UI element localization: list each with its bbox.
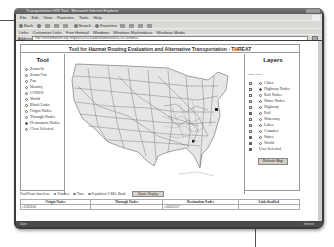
origin-node-marker bbox=[215, 108, 218, 111]
route-distance-radio[interactable] bbox=[54, 193, 57, 196]
app-frame: Tool for Hazmat Routing Evaluation and A… bbox=[20, 44, 300, 191]
active-radio[interactable] bbox=[259, 118, 262, 121]
visible-checkbox-checked[interactable] bbox=[249, 136, 252, 139]
through-node-cell[interactable] bbox=[90, 205, 163, 210]
radio-icon[interactable] bbox=[25, 74, 28, 77]
destination-node-marker bbox=[192, 140, 195, 143]
tool-label: Clear Selected bbox=[30, 126, 53, 131]
layer-label: States bbox=[264, 134, 274, 139]
active-radio[interactable] bbox=[259, 112, 262, 115]
tool-label: CONUS bbox=[30, 90, 44, 95]
route-distance-label: Distance bbox=[57, 192, 69, 196]
layer-label: Rail bbox=[264, 110, 271, 115]
layer-label: Waterway bbox=[264, 116, 280, 121]
route-population-label: Population 3-Mile Band bbox=[92, 192, 126, 196]
link-disabled-cell[interactable] bbox=[238, 205, 299, 210]
tool-label: Block Links bbox=[30, 102, 50, 107]
active-radio[interactable] bbox=[259, 100, 262, 103]
tool-heading: Tool bbox=[21, 57, 64, 63]
go-button[interactable] bbox=[312, 36, 318, 40]
radio-icon[interactable] bbox=[25, 68, 28, 71]
tool-options: Zoom In Zoom Out Pan Identify CONUS Worl… bbox=[25, 66, 64, 132]
tool-label: Zoom Out bbox=[30, 72, 47, 77]
layers-panel: Layers Visible Active Cities Highway Nod… bbox=[245, 54, 301, 194]
tool-label: Identify bbox=[30, 84, 43, 89]
visible-checkbox-checked[interactable] bbox=[249, 142, 252, 145]
visible-checkbox[interactable] bbox=[249, 100, 252, 103]
status-text: Done bbox=[20, 222, 27, 226]
layers-hint: Visible Active bbox=[247, 73, 301, 76]
radio-icon[interactable] bbox=[25, 110, 28, 113]
route-time-label: Time bbox=[77, 192, 84, 196]
visible-checkbox[interactable] bbox=[249, 88, 252, 91]
layer-label: Highway bbox=[264, 104, 279, 109]
tool-label: Origin Nodes bbox=[30, 108, 52, 113]
layer-label: Water Nodes bbox=[264, 98, 285, 103]
active-radio[interactable] bbox=[259, 94, 262, 97]
vertical-scrollbar[interactable] bbox=[318, 41, 322, 221]
destination-node-cell[interactable]: e36022357 bbox=[163, 205, 238, 210]
visible-checkbox[interactable] bbox=[249, 94, 252, 97]
address-label: Address bbox=[18, 36, 33, 40]
radio-icon[interactable] bbox=[25, 116, 28, 119]
active-radio-selected[interactable] bbox=[259, 88, 262, 91]
tool-label: Destination Nodes bbox=[30, 120, 60, 125]
route-label: Find Route based on: bbox=[20, 192, 50, 196]
status-bar: Done Internet bbox=[16, 221, 322, 227]
layer-label: Lakes bbox=[264, 122, 274, 127]
page-title: Tool for Hazmat Routing Evaluation and A… bbox=[21, 45, 299, 53]
browser-window: Transportation GIS Tool - Microsoft Inte… bbox=[14, 8, 324, 229]
layer-label: World bbox=[264, 140, 274, 145]
tool-clear-selected[interactable]: Clear Selected bbox=[25, 126, 64, 132]
active-radio[interactable] bbox=[259, 82, 262, 85]
radio-icon[interactable] bbox=[25, 92, 28, 95]
route-population-radio[interactable] bbox=[88, 193, 91, 196]
active-radio[interactable] bbox=[259, 136, 262, 139]
radio-icon[interactable] bbox=[25, 104, 28, 107]
visible-checkbox[interactable] bbox=[249, 124, 252, 127]
layer-label: Highway Nodes bbox=[264, 86, 290, 91]
callout-line-bottom bbox=[255, 228, 256, 247]
tool-label: Pan bbox=[30, 78, 36, 83]
visible-checkbox[interactable] bbox=[249, 130, 252, 133]
visible-checkbox-checked[interactable] bbox=[249, 148, 252, 151]
visible-checkbox[interactable] bbox=[249, 106, 252, 109]
page-content: Tool for Hazmat Routing Evaluation and A… bbox=[16, 41, 318, 221]
route-display-button[interactable]: Route Display bbox=[132, 191, 164, 197]
map-view[interactable] bbox=[65, 54, 245, 194]
active-radio[interactable] bbox=[259, 130, 262, 133]
route-time-radio[interactable] bbox=[73, 193, 76, 196]
tool-label: Through Nodes bbox=[30, 114, 55, 119]
layer-user-selected: User Selected bbox=[249, 146, 301, 152]
layer-label: Counties bbox=[264, 128, 278, 133]
radio-icon[interactable] bbox=[25, 128, 28, 131]
address-input[interactable]: http://cta/hazmat/tool.asp?origin=e12010… bbox=[32, 36, 308, 40]
security-zone: Internet bbox=[304, 222, 314, 226]
us-rail-network-map[interactable] bbox=[68, 56, 240, 186]
layer-label: Rail Nodes bbox=[264, 92, 282, 97]
origin-node-cell[interactable]: e1201010 bbox=[21, 205, 91, 210]
radio-icon[interactable] bbox=[25, 80, 28, 83]
visible-checkbox[interactable] bbox=[249, 82, 252, 85]
active-radio[interactable] bbox=[259, 106, 262, 109]
radio-selected-icon[interactable] bbox=[25, 122, 28, 125]
tool-label: World bbox=[30, 96, 40, 101]
nodes-table: Origin Nodes Through Nodes Destination N… bbox=[20, 199, 300, 210]
window-controls[interactable] bbox=[306, 9, 320, 13]
radio-icon[interactable] bbox=[25, 86, 28, 89]
active-radio[interactable] bbox=[259, 142, 262, 145]
tool-panel: Tool Zoom In Zoom Out Pan Identify CONUS… bbox=[21, 54, 65, 194]
layers-heading: Layers bbox=[245, 57, 301, 63]
layer-label: User Selected bbox=[259, 146, 281, 151]
layer-list: Cities Highway Nodes Rail Nodes Water No… bbox=[249, 80, 301, 152]
refresh-map-button[interactable]: Refresh Map bbox=[258, 158, 288, 165]
active-radio[interactable] bbox=[259, 124, 262, 127]
visible-checkbox[interactable] bbox=[249, 118, 252, 121]
visible-checkbox-checked[interactable] bbox=[249, 112, 252, 115]
table-row: e1201010 e36022357 bbox=[21, 205, 300, 210]
address-bar: Address http://cta/hazmat/tool.asp?origi… bbox=[16, 34, 322, 40]
toolbar: Back Search Favorites bbox=[16, 20, 322, 28]
window-title: Transportation GIS Tool - Microsoft Inte… bbox=[26, 8, 118, 13]
tool-label: Zoom In bbox=[30, 66, 44, 71]
radio-icon[interactable] bbox=[25, 98, 28, 101]
